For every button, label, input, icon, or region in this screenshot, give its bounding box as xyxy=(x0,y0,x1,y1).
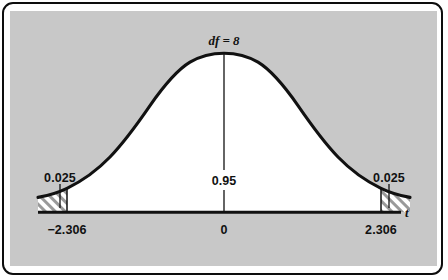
x-tick-label-center: 0 xyxy=(220,224,227,237)
central-area-label: 0.95 xyxy=(212,175,237,188)
df-label: df = 8 xyxy=(208,34,239,47)
right-tail-area-label: 0.025 xyxy=(373,172,405,185)
x-tick-label-left: −2.306 xyxy=(47,224,86,237)
left-tail-area-label: 0.025 xyxy=(44,172,76,185)
x-tick-label-right: 2.306 xyxy=(365,224,397,237)
x-axis-variable-label: t xyxy=(405,206,409,219)
figure-root: df = 8 0.95 0.025 0.025 −2.306 0 2.306 t xyxy=(0,0,448,280)
